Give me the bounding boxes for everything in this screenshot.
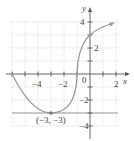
- origin-label: 0: [82, 75, 87, 85]
- function-curve: [12, 24, 111, 113]
- y-tick-label-minus-4: −4: [79, 121, 89, 131]
- left-endpoint: [11, 73, 14, 76]
- y-tick-label-2: 2: [94, 43, 99, 53]
- x-tick-label-minus-2: −2: [58, 79, 68, 89]
- vertex-label: (−3, −3): [36, 115, 66, 125]
- curve-arrow-icon: [109, 23, 115, 27]
- y-tick-label-minus-2: −2: [79, 95, 89, 105]
- y-tick-label-4: 4: [80, 17, 85, 27]
- x-axis-label: x: [122, 76, 127, 86]
- y-axis-label: y: [81, 3, 86, 13]
- x-axis: [6, 72, 128, 77]
- x-tick-label-2: 2: [114, 79, 119, 89]
- graph: y x 0 −4 −2 2 4 2 −2 −4 (−3, −3): [0, 0, 134, 141]
- y-axis: [88, 10, 93, 139]
- x-tick-label-minus-4: −4: [32, 79, 42, 89]
- y-axis-arrow-icon: [88, 7, 92, 12]
